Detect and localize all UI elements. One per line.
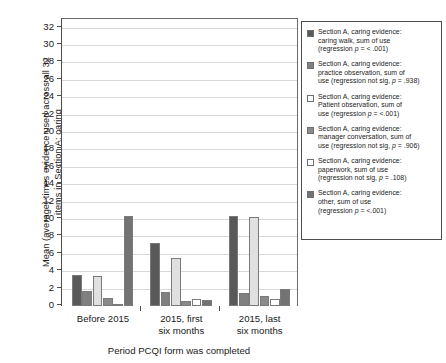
bar: [113, 304, 123, 306]
y-tick-label: 32: [43, 21, 54, 33]
legend-item: Section A, caring evidence:manager conve…: [307, 125, 437, 151]
bar: [270, 299, 280, 306]
bar: [280, 289, 290, 306]
legend: Section A, caring evidence:caring walk, …: [301, 21, 442, 240]
gridline: [62, 236, 297, 237]
y-tick: 8: [0, 229, 62, 241]
y-tick: 28: [0, 55, 62, 67]
bar-chart-figure: Mean (average) times evidence used acros…: [0, 0, 446, 363]
y-tick-label: 4: [49, 264, 54, 276]
legend-swatch-icon: [307, 95, 314, 102]
bar: [150, 243, 160, 306]
y-tick-label: 6: [49, 247, 54, 259]
x-category-label: 2015, last six months: [215, 313, 305, 336]
bar: [171, 258, 181, 306]
bar: [192, 299, 202, 306]
x-axis-title: Period PCQI form was completed: [46, 345, 312, 356]
x-category-label: Before 2015: [58, 313, 148, 325]
gridline: [62, 254, 297, 255]
y-tick-label: 2: [49, 282, 54, 294]
legend-label: Section A, caring evidence:manager conve…: [318, 125, 420, 151]
y-tick: 30: [0, 38, 62, 50]
plot-inner: [62, 19, 297, 306]
y-tick: 12: [0, 195, 62, 207]
gridline: [62, 97, 297, 98]
legend-item: Section A, caring evidence:paperwork, su…: [307, 157, 437, 183]
legend-item: Section A, caring evidence:other, sum of…: [307, 189, 437, 215]
y-tick-label: 28: [43, 55, 54, 67]
gridline: [62, 132, 297, 133]
y-tick: 16: [0, 160, 62, 172]
y-tick: 22: [0, 108, 62, 120]
bar: [82, 291, 92, 306]
gridline: [62, 80, 297, 81]
bar: [181, 301, 191, 306]
bar: [93, 276, 103, 306]
y-tick-label: 12: [43, 195, 54, 207]
plot-area: [62, 18, 298, 306]
bar: [161, 292, 171, 306]
legend-swatch-icon: [307, 30, 314, 37]
y-tick-label: 24: [43, 90, 54, 102]
y-tick: 2: [0, 282, 62, 294]
legend-swatch-icon: [307, 191, 314, 198]
y-tick-label: 16: [43, 160, 54, 172]
gridline: [62, 28, 297, 29]
gridline: [62, 45, 297, 46]
y-axis-ticks: 02468101214161820222426283032: [0, 0, 62, 363]
x-tick-mark: [140, 306, 141, 311]
y-tick-label: 8: [49, 229, 54, 241]
legend-swatch-icon: [307, 127, 314, 134]
y-tick: 14: [0, 177, 62, 189]
bar: [239, 293, 249, 306]
y-tick: 10: [0, 212, 62, 224]
bar: [124, 216, 134, 306]
legend-label: Section A, caring evidence:Patient obser…: [318, 93, 402, 119]
x-category-label: 2015, first six months: [136, 313, 226, 336]
x-tick-mark: [219, 306, 220, 311]
y-tick: 18: [0, 142, 62, 154]
legend-swatch-icon: [307, 159, 314, 166]
gridline: [62, 149, 297, 150]
legend-item: Section A, caring evidence:practice obse…: [307, 60, 437, 86]
bar: [229, 216, 239, 306]
legend-swatch-icon: [307, 62, 314, 69]
y-tick-label: 14: [43, 177, 54, 189]
y-tick-label: 0: [49, 299, 54, 311]
gridline: [62, 115, 297, 116]
bar: [72, 275, 82, 306]
legend-item: Section A, caring evidence:caring walk, …: [307, 28, 437, 54]
legend-label: Section A, caring evidence:practice obse…: [318, 60, 420, 86]
y-tick: 26: [0, 73, 62, 85]
bar: [103, 298, 113, 306]
gridline: [62, 219, 297, 220]
gridline: [62, 202, 297, 203]
y-tick: 24: [0, 90, 62, 102]
y-tick-label: 20: [43, 125, 54, 137]
y-tick-label: 10: [43, 212, 54, 224]
y-tick: 32: [0, 21, 62, 33]
y-tick-label: 26: [43, 73, 54, 85]
bar: [249, 217, 259, 306]
bar: [202, 300, 212, 306]
gridline: [62, 184, 297, 185]
legend-label: Section A, caring evidence:other, sum of…: [318, 189, 402, 215]
legend-label: Section A, caring evidence:caring walk, …: [318, 28, 402, 54]
legend-item: Section A, caring evidence:Patient obser…: [307, 93, 437, 119]
legend-label: Section A, caring evidence:paperwork, su…: [318, 157, 407, 183]
y-tick-label: 22: [43, 108, 54, 120]
y-tick: 6: [0, 247, 62, 259]
bar: [260, 296, 270, 306]
gridline: [62, 167, 297, 168]
y-tick-label: 30: [43, 38, 54, 50]
gridline: [62, 62, 297, 63]
y-tick: 20: [0, 125, 62, 137]
y-tick: 0: [0, 299, 62, 311]
y-tick: 4: [0, 264, 62, 276]
y-tick-label: 18: [43, 142, 54, 154]
